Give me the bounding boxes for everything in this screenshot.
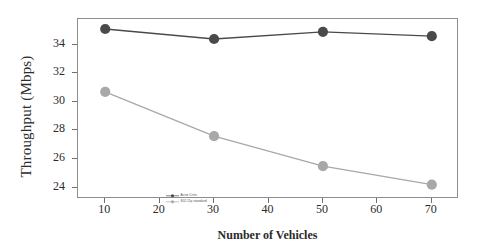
y-tick-mark bbox=[72, 187, 77, 188]
y-tick-mark bbox=[72, 158, 77, 159]
chart-figure: Throughput (Mbps) Actor Critic 802.11p s… bbox=[0, 0, 486, 252]
x-tick-mark bbox=[268, 198, 269, 203]
y-tick-label: 26 bbox=[35, 150, 65, 165]
x-tick-mark bbox=[104, 198, 105, 203]
x-tick-label: 70 bbox=[411, 202, 451, 217]
plot-canvas bbox=[78, 19, 459, 199]
y-tick-label: 34 bbox=[35, 36, 65, 51]
data-point bbox=[209, 131, 219, 141]
y-tick-label: 28 bbox=[35, 121, 65, 136]
data-point bbox=[427, 31, 437, 41]
y-tick-mark bbox=[72, 101, 77, 102]
x-axis-title: Number of Vehicles bbox=[77, 228, 458, 243]
x-tick-mark bbox=[213, 198, 214, 203]
x-tick-label: 60 bbox=[356, 202, 396, 217]
data-point bbox=[100, 87, 110, 97]
x-tick-mark bbox=[431, 198, 432, 203]
y-tick-label: 32 bbox=[35, 64, 65, 79]
x-tick-label: 20 bbox=[139, 202, 179, 217]
x-tick-mark bbox=[322, 198, 323, 203]
plot-area: Actor Critic 802.11p standard bbox=[77, 18, 458, 198]
y-tick-mark bbox=[72, 72, 77, 73]
x-tick-label: 40 bbox=[248, 202, 288, 217]
y-axis-title: Throughput (Mbps) bbox=[18, 17, 35, 217]
data-point bbox=[209, 34, 219, 44]
y-tick-label: 30 bbox=[35, 93, 65, 108]
y-tick-mark bbox=[72, 129, 77, 130]
x-tick-mark bbox=[159, 198, 160, 203]
x-tick-label: 30 bbox=[193, 202, 233, 217]
y-tick-mark bbox=[72, 44, 77, 45]
x-tick-label: 10 bbox=[84, 202, 124, 217]
series-line-0 bbox=[105, 29, 432, 39]
data-point bbox=[427, 180, 437, 190]
series-line-1 bbox=[105, 92, 432, 185]
data-point bbox=[318, 161, 328, 171]
data-point bbox=[100, 24, 110, 34]
y-tick-label: 24 bbox=[35, 179, 65, 194]
x-tick-label: 50 bbox=[302, 202, 342, 217]
x-tick-mark bbox=[376, 198, 377, 203]
data-point bbox=[318, 27, 328, 37]
